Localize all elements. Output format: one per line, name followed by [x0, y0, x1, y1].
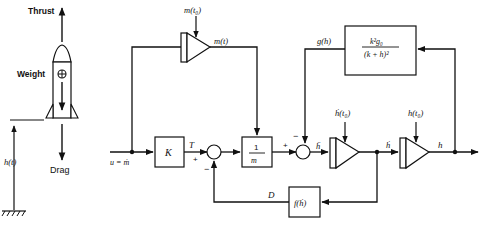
- velocity-ic-label: ḣ(t₀): [335, 108, 350, 118]
- velocity-integrator: [330, 138, 359, 168]
- drag-label: Drag: [50, 165, 70, 175]
- sum2-plus: +: [283, 141, 288, 150]
- hdot-label: ḣ: [386, 140, 390, 150]
- mass-loop-line: [132, 47, 181, 152]
- drag-signal-label: D: [267, 190, 275, 200]
- block-diagram: Thrust Weight Drag h(t) u: [0, 0, 480, 231]
- weight-label: Weight: [17, 69, 45, 79]
- rocket-sketch: Thrust Weight Drag h(t): [2, 6, 78, 216]
- gain-k-label: K: [164, 147, 173, 158]
- height-integrator: [400, 138, 429, 168]
- gravity-denominator: (k + h)²: [364, 50, 389, 59]
- thrust-label: Thrust: [28, 6, 55, 16]
- gravity-numerator: k²g₀: [370, 37, 383, 46]
- rocket-nose: [53, 45, 71, 62]
- rocket-fin-left: [46, 104, 53, 118]
- mass-output-line: [210, 47, 257, 135]
- summing-junction-1: [207, 145, 221, 159]
- height-junction-dot: [453, 150, 457, 154]
- sum1-minus: −: [204, 164, 209, 174]
- gravity-output-line: [305, 49, 345, 143]
- thrust-signal-label: T: [189, 140, 195, 150]
- gravity-feedback-line: [418, 49, 455, 152]
- mass-integrator: [181, 33, 210, 62]
- sum1-plus: +: [193, 155, 198, 164]
- height-output-label: h: [438, 140, 443, 150]
- gravity-output-label: g(h): [317, 36, 331, 46]
- drag-block-label: f(ḣ): [294, 198, 306, 208]
- rocket-fin-right: [71, 104, 78, 118]
- inverse-mass-numerator: 1: [254, 143, 259, 152]
- inverse-mass-block: [242, 137, 272, 167]
- mass-output-label: m(t): [214, 36, 228, 46]
- input-label: u = ṁ: [110, 158, 129, 167]
- hddot-label: ḧ: [316, 141, 321, 151]
- sum2-minus: −: [293, 131, 298, 141]
- ground-icon: [2, 211, 26, 216]
- mass-ic-label: m(t₀): [184, 5, 201, 15]
- height-label: h(t): [4, 157, 16, 167]
- summing-junction-2: [296, 145, 310, 159]
- height-ic-label: h(t₀): [408, 108, 423, 118]
- inverse-mass-denominator: m: [251, 156, 257, 165]
